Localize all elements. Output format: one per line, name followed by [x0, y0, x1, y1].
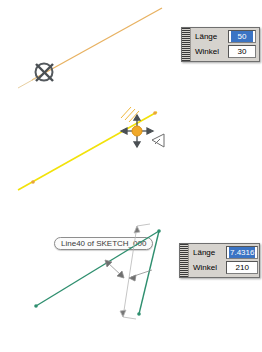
sketch-canvas-2[interactable]: [0, 100, 262, 200]
sketch-line-yellow[interactable]: [18, 112, 157, 190]
field-value-winkel: 30: [231, 46, 253, 57]
line-endpoint-start[interactable]: [31, 180, 35, 184]
sketch-line-green-main[interactable]: [36, 231, 159, 306]
snap-crosshair-icon: [36, 64, 54, 82]
stage-length-angle-absolute: Länge 50 Winkel 30: [0, 0, 262, 100]
field-value-laenge: 50: [231, 31, 253, 42]
vertex-end[interactable]: [137, 312, 141, 316]
sketch-line-green-new[interactable]: [139, 231, 159, 314]
input-panel-absolute[interactable]: Länge 50 Winkel 30: [181, 27, 260, 62]
field-input-winkel[interactable]: 30: [228, 45, 256, 58]
stage-drag-endpoint: Line40 of SKETCH_000 Länge 7.4316 Winkel…: [0, 100, 262, 200]
field-row-laenge: Länge 50: [195, 30, 256, 43]
panel-grip-handle[interactable]: [182, 28, 191, 61]
vertex-start[interactable]: [34, 304, 38, 308]
stage-relative-angle: 30 45° Länge 30 Relativer Winkel 45: [0, 200, 262, 352]
field-label-winkel: Winkel: [195, 45, 228, 58]
dimension-line-30: [120, 224, 150, 319]
sketch-canvas-3[interactable]: [0, 200, 262, 352]
angle-leader-lines: [105, 260, 152, 281]
field-label-laenge: Länge: [195, 30, 228, 43]
field-row-winkel: Winkel 30: [195, 45, 256, 58]
sketch-line-orange-tail: [18, 78, 36, 88]
field-input-laenge[interactable]: 50: [228, 30, 256, 43]
vertex-corner[interactable]: [157, 229, 161, 233]
pencil-edit-icon: [152, 134, 164, 147]
line-endpoint-finish[interactable]: [153, 111, 157, 115]
drag-node-marker[interactable]: [132, 126, 142, 136]
